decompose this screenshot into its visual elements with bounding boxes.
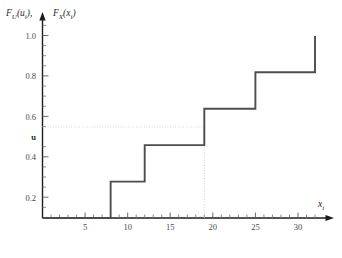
y-tick-label-0.6: 0.6 (25, 112, 36, 122)
y-axis-title-comma: , (30, 8, 32, 18)
y-tick-label-0.8: 0.8 (25, 71, 36, 81)
y-tick-label-0.2: 0.2 (25, 193, 36, 203)
empirical-cdf-step-curve (43, 36, 316, 218)
y-tick-label-u: u (31, 132, 36, 142)
x-tick-label-30: 30 (294, 222, 303, 232)
x-tick-label-10: 10 (123, 222, 132, 232)
y-axis-arrowhead (39, 12, 45, 21)
x-axis-title: xi (317, 199, 324, 212)
chart-figure: 1.0 0.8 0.6 u 0.4 0.2 5 10 15 20 25 30 F… (0, 0, 342, 258)
svg-text:FU(ui),: FU(ui), (5, 8, 32, 21)
cdf-step-plot: 1.0 0.8 0.6 u 0.4 0.2 5 10 15 20 25 30 F… (0, 0, 342, 258)
y-axis-title-arg-close-2: ) (71, 8, 75, 19)
x-axis-title-sub-i: i (322, 204, 324, 212)
x-tick-label-20: 20 (209, 222, 218, 232)
x-axis-arrowhead (326, 215, 335, 221)
svg-text:FX(xi): FX(xi) (52, 8, 76, 21)
x-tick-label-15: 15 (166, 222, 175, 232)
x-tick-label-5: 5 (83, 222, 87, 232)
x-tick-label-25: 25 (251, 222, 260, 232)
y-tick-label-1.0: 1.0 (25, 31, 36, 41)
y-axis-ticks (43, 25, 49, 207)
y-tick-label-0.4: 0.4 (25, 152, 36, 162)
